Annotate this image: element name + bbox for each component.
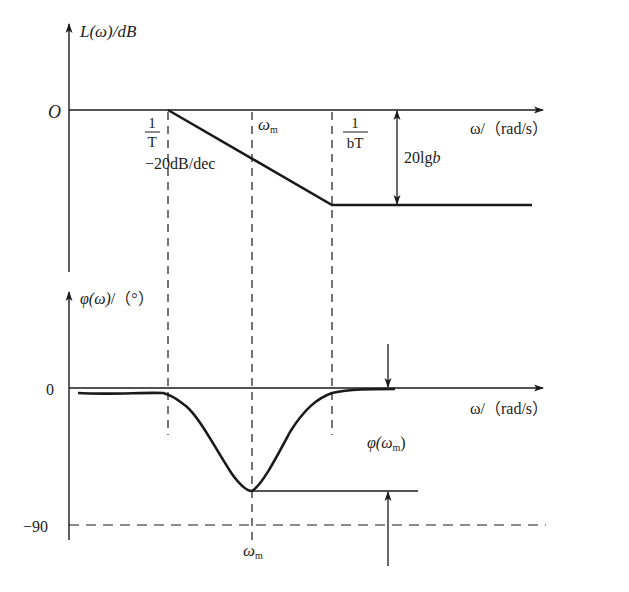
svg-text:1: 1 (148, 115, 156, 131)
magnitude-x-axis-label: ω/（rad/s） (470, 120, 548, 137)
svg-text:1: 1 (351, 115, 359, 131)
svg-text:bT: bT (347, 135, 364, 151)
corner-1-over-T-label: 1 T (145, 115, 160, 150)
magnitude-plot: L(ω)/dB O ω/（rad/s） 1 T ωm 1 bT −20dB/de… (48, 22, 548, 272)
phase-zero-tick: 0 (46, 381, 54, 398)
magnitude-y-axis-label: L(ω)/dB (79, 22, 137, 41)
corner-1-over-bT-label: 1 bT (343, 115, 368, 151)
omega-m-label-top: ωm (258, 115, 278, 135)
origin-label: O (48, 102, 61, 122)
slope-label: −20dB/dec (145, 155, 215, 172)
phase-x-axis-label: ω/（rad/s） (470, 400, 548, 417)
svg-text:T: T (147, 134, 156, 150)
phase-curve (78, 389, 395, 491)
bode-diagram: L(ω)/dB O ω/（rad/s） 1 T ωm 1 bT −20dB/de… (0, 0, 629, 592)
frequency-guides (168, 112, 332, 540)
phase-minus-90-tick: −90 (23, 518, 48, 535)
omega-m-label-bottom: ωm (243, 541, 263, 561)
20lgb-label: 20lgb (404, 149, 440, 167)
phi-m-label: φ(ωm) (367, 434, 406, 453)
phase-plot: φ(ω)/（°） φ(ω)/（°） 0 ω/（rad/s） −90 φ(ωm) … (23, 290, 548, 566)
phase-y-axis-label: φ(ω)/（°） (80, 290, 154, 308)
